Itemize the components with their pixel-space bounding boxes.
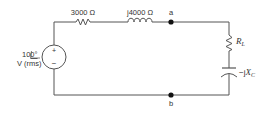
source-units-label: V (rms): [17, 59, 42, 68]
circuit-svg: 3000 Ω j4000 Ω a b RL −: [0, 0, 271, 113]
source-magnitude: 10: [22, 50, 30, 59]
source-minus-sign: −: [52, 59, 57, 68]
series-inductor: j4000 Ω: [126, 8, 153, 22]
load-resistor: RL: [226, 33, 246, 52]
wire-left-top: [54, 22, 74, 45]
series-inductor-label: j4000 Ω: [126, 8, 153, 17]
series-resistor-label: 3000 Ω: [71, 8, 96, 17]
node-b-dot-icon: [168, 92, 173, 97]
series-resistor: 3000 Ω: [71, 8, 96, 25]
load-resistor-subscript: L: [241, 41, 246, 47]
circuit-diagram: 3000 Ω j4000 Ω a b RL −: [0, 0, 271, 113]
source-value-label: 100°: [22, 50, 38, 59]
load-resistor-zigzag-icon: [226, 33, 232, 52]
inductor-coil-icon: [128, 18, 152, 22]
wires: [54, 22, 229, 95]
load-capacitor-label: −jXC: [239, 67, 256, 78]
node-a-label: a: [169, 8, 174, 17]
node-a-dot-icon: [168, 19, 173, 24]
node-b: b: [168, 92, 173, 108]
voltage-source: + − 100° V (rms): [17, 45, 66, 69]
load-capacitor-subscript: C: [251, 72, 256, 78]
wire-bottom: [54, 69, 229, 95]
load-resistor-label: RL: [235, 36, 246, 47]
wire-top-right: [152, 22, 229, 33]
source-plus-sign: +: [52, 47, 56, 54]
node-b-label: b: [169, 99, 173, 108]
resistor-zigzag-icon: [74, 19, 92, 25]
node-a: a: [168, 8, 174, 25]
load-capacitor: −jXC: [221, 67, 256, 78]
